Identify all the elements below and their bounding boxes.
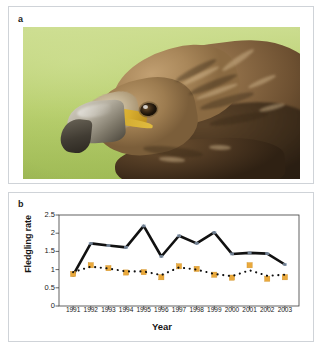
- series-black-dotted-line: [73, 267, 285, 276]
- panel-a-label: a: [18, 15, 23, 24]
- plot-frame: [59, 215, 299, 306]
- figure-panel-b: b Fledgling rate 00.511.522.5 1991199219…: [8, 192, 314, 342]
- eagle-eye-highlight: [143, 105, 148, 109]
- x-axis-title: Year: [9, 321, 315, 332]
- eagle-beak-tip: [59, 118, 92, 155]
- x-tick-label: 2003: [274, 307, 296, 314]
- fledgling-rate-chart: Fledgling rate 00.511.522.5 199119921993…: [9, 193, 315, 343]
- series-orange-squares: [71, 263, 288, 282]
- eagle-photograph: [23, 27, 300, 179]
- axis-ticks: [56, 215, 285, 310]
- x-axis-tick-labels: 1991199219931994199519961997199819992000…: [59, 307, 299, 319]
- figure-panel-a: a: [8, 6, 314, 184]
- eagle-illustration: [23, 27, 300, 179]
